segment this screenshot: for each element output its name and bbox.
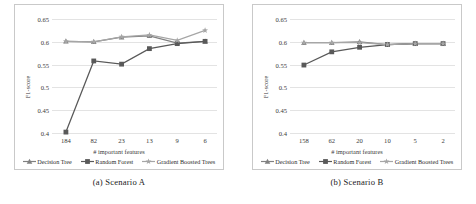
- plot-area-a: F1-score 0.40.450.50.550.60.651848223139…: [15, 5, 223, 169]
- legend-item-decision-tree[interactable]: Decision Tree: [23, 158, 72, 165]
- data-point-star-marker: [146, 158, 152, 164]
- chart-frame-b: F1-score 0.40.450.50.550.60.651586220105…: [252, 4, 462, 170]
- legend-a: Decision TreeRandom ForestGradient Boost…: [15, 158, 223, 165]
- data-point-square-marker: [175, 41, 180, 46]
- panel-caption-b: (b) Scenario B: [331, 177, 384, 187]
- data-point-square-marker: [203, 39, 208, 44]
- data-point-square-marker: [323, 159, 328, 164]
- data-point-star-marker: [384, 158, 390, 164]
- series-line: [66, 30, 205, 41]
- legend-item-gradient-boosted-trees[interactable]: Gradient Boosted Trees: [380, 158, 453, 165]
- data-point-square-marker: [85, 159, 90, 164]
- panel-caption-a: (a) Scenario A: [93, 177, 145, 187]
- data-point-square-marker: [357, 45, 362, 50]
- legend-b: Decision TreeRandom ForestGradient Boost…: [253, 158, 461, 165]
- series-line: [66, 41, 205, 132]
- triangle-marker-icon: [23, 158, 36, 165]
- data-point-square-marker: [302, 63, 307, 68]
- x-axis-label-holder: # important features: [253, 148, 461, 155]
- legend-label: Random Forest: [95, 158, 133, 165]
- legend-label: Gradient Boosted Trees: [395, 158, 453, 165]
- legend-label: Gradient Boosted Trees: [157, 158, 215, 165]
- data-point-square-marker: [119, 62, 124, 67]
- series-layer-a: [15, 5, 225, 171]
- plot-area-b: F1-score 0.40.450.50.550.60.651586220105…: [253, 5, 461, 169]
- series-layer-b: [253, 5, 463, 171]
- star-marker-icon: [380, 158, 393, 165]
- chart-panel-scenario-b: F1-score 0.40.450.50.550.60.651586220105…: [238, 0, 476, 204]
- square-marker-icon: [319, 158, 332, 165]
- x-axis-label-holder: # important features: [15, 148, 223, 155]
- chart-panel-scenario-a: F1-score 0.40.450.50.550.60.651848223139…: [0, 0, 238, 204]
- x-axis-label: # important features: [93, 148, 144, 155]
- legend-label: Decision Tree: [275, 158, 310, 165]
- square-marker-icon: [81, 158, 94, 165]
- data-point-square-marker: [64, 130, 69, 135]
- legend-label: Random Forest: [333, 158, 371, 165]
- data-point-star-marker: [357, 40, 363, 46]
- series-line: [304, 44, 443, 65]
- data-point-square-marker: [147, 46, 152, 51]
- triangle-marker-icon: [261, 158, 274, 165]
- legend-item-random-forest[interactable]: Random Forest: [319, 158, 371, 165]
- legend-item-random-forest[interactable]: Random Forest: [81, 158, 133, 165]
- chart-frame-a: F1-score 0.40.450.50.550.60.651848223139…: [14, 4, 224, 170]
- data-point-star-marker: [202, 27, 208, 33]
- legend-item-gradient-boosted-trees[interactable]: Gradient Boosted Trees: [142, 158, 215, 165]
- data-point-square-marker: [91, 59, 96, 64]
- legend-item-decision-tree[interactable]: Decision Tree: [261, 158, 310, 165]
- x-axis-label: # important features: [331, 148, 382, 155]
- data-point-square-marker: [329, 49, 334, 54]
- figure-panels-row: F1-score 0.40.450.50.550.60.651848223139…: [0, 0, 476, 204]
- legend-label: Decision Tree: [37, 158, 72, 165]
- star-marker-icon: [142, 158, 155, 165]
